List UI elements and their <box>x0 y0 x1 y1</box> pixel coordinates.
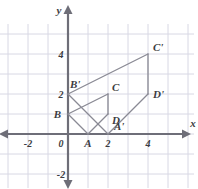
x-tick-label-4: 4 <box>145 138 151 149</box>
x-tick-label-neg2: -2 <box>24 138 32 149</box>
point-label-Dprime: D' <box>152 88 164 100</box>
point-label-A: A <box>83 137 91 149</box>
point-label-Cprime: C' <box>153 41 163 53</box>
point-label-B: B <box>53 108 61 120</box>
point-label-Aprime: A' <box>113 120 124 132</box>
x-axis-arrow-left <box>0 130 8 139</box>
origin-label: 0 <box>59 138 64 149</box>
x-tick-label-2: 2 <box>105 138 111 149</box>
y-tick-label-neg2: -2 <box>57 169 65 180</box>
x-axis-arrow-right <box>182 130 191 139</box>
y-tick-label-2: 2 <box>58 89 64 100</box>
grid-lines <box>0 24 194 188</box>
x-axis-name: x <box>189 117 196 129</box>
coordinate-plane-figure: -202442-2 ABCDA'B'C'D' xy <box>0 0 198 189</box>
y-axis-arrow-up <box>64 5 73 14</box>
coordinate-plane-svg: -202442-2 ABCDA'B'C'D' xy <box>0 0 198 189</box>
y-tick-label-4: 4 <box>58 49 64 60</box>
y-axis-arrow-down <box>64 180 73 189</box>
y-axis-name: y <box>55 4 62 16</box>
point-label-C: C <box>112 81 120 93</box>
point-label-Bprime: B' <box>69 78 80 90</box>
edge-B-A <box>68 114 88 134</box>
